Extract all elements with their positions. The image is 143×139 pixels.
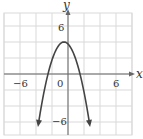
parabola-curve <box>38 42 89 124</box>
y-tick-neg6: −6 <box>52 116 67 127</box>
curve-arrow-right-icon <box>86 120 92 127</box>
x-tick-0: 0 <box>57 78 63 89</box>
x-tick-neg6: −6 <box>13 78 28 89</box>
graph: y x 6 −6 −6 0 6 <box>0 0 143 139</box>
coordinate-plane: y x 6 −6 −6 0 6 <box>0 0 143 139</box>
curve-arrow-left-icon <box>36 120 42 127</box>
x-axis-label: x <box>136 67 143 81</box>
y-tick-6: 6 <box>58 22 64 33</box>
x-tick-6: 6 <box>113 78 119 89</box>
y-axis-label: y <box>62 0 70 12</box>
axes <box>4 9 135 135</box>
